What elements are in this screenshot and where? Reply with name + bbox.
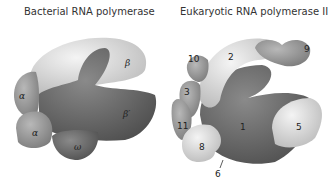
svg-text:2: 2: [228, 52, 234, 62]
svg-text:β′: β′: [122, 109, 130, 119]
subunit-9: [255, 40, 310, 66]
svg-text:5: 5: [296, 122, 302, 132]
svg-text:1: 1: [240, 122, 246, 132]
svg-text:9: 9: [304, 44, 310, 54]
svg-text:ω: ω: [74, 142, 82, 152]
bacterial-rnap: β β′ α α ω: [14, 38, 156, 160]
subunit-alpha-1: [14, 72, 39, 119]
svg-text:3: 3: [184, 87, 190, 97]
svg-text:10: 10: [188, 54, 200, 64]
svg-text:α: α: [19, 91, 25, 101]
eukaryotic-rnap: 1 2 3 5 6 8 9 10 11: [172, 38, 322, 179]
svg-text:6: 6: [215, 169, 221, 179]
svg-text:α: α: [32, 128, 38, 138]
svg-text:β: β: [124, 58, 130, 68]
diagram-canvas: β β′ α α ω 1 2 3 5 6 8 9 10 11: [0, 0, 333, 186]
svg-text:11: 11: [177, 121, 188, 131]
svg-text:8: 8: [199, 142, 205, 152]
